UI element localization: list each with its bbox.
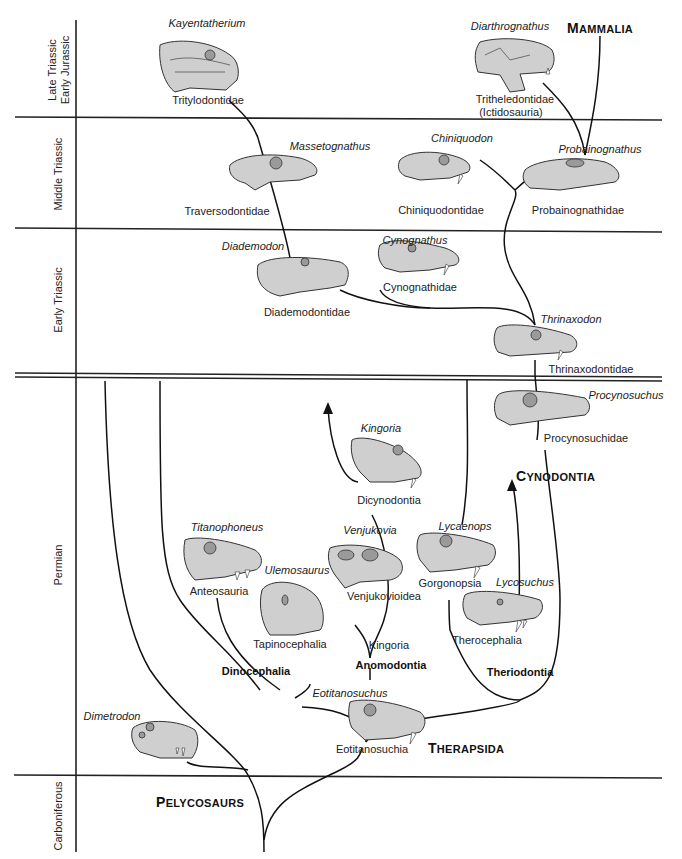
- major-label-therapsida: THERAPSIDA: [428, 740, 504, 756]
- group-theriodontia: Theriodontia: [487, 666, 554, 678]
- family-gorgonopsia: Gorgonopsia: [419, 577, 483, 589]
- arrow-dicynodont: [323, 402, 333, 414]
- period-labels: Late Triassic Early Jurassic Middle Tria…: [46, 35, 71, 850]
- boundary-middle-early-triassic: [15, 228, 662, 232]
- genus-cynognathus: Cynognathus: [383, 234, 448, 246]
- genus-thrinaxodon: Thrinaxodon: [540, 313, 601, 325]
- genus-venjukovia: Venjukovia: [343, 524, 396, 536]
- genus-procynosuchus: Procynosuchus: [588, 389, 664, 401]
- family-tritylodontidae: Tritylodontidae: [172, 94, 244, 106]
- branch-mammalia: [585, 36, 600, 155]
- branch-dicynodontia: [370, 515, 388, 658]
- skull-lycaenops: [417, 533, 495, 578]
- major-label-pelycosaurs: PELYCOSAURS: [156, 794, 244, 810]
- skull-chiniquodon: [398, 152, 470, 184]
- boundary-triassic-permian-b: [15, 377, 662, 381]
- family-tapinocephalia: Tapinocephalia: [253, 638, 327, 650]
- group-anomodontia: Anomodontia: [356, 659, 428, 671]
- skull-venjukovia: [328, 545, 402, 588]
- family-dicynodontia: Dicynodontia: [357, 494, 421, 506]
- genus-kayentatherium: Kayentatherium: [168, 17, 245, 29]
- family-probainognathidae: Probainognathidae: [532, 204, 624, 216]
- genus-eotitanosuchus: Eotitanosuchus: [312, 687, 388, 699]
- genus-lycosuchus: Lycosuchus: [496, 576, 554, 588]
- family-venjukovioidea: Venjukovioidea: [347, 590, 422, 602]
- family-anteosauria: Anteosauria: [190, 585, 250, 597]
- family-chiniquodontidae: Chiniquodontidae: [398, 204, 484, 216]
- branch-pelycosaur-stem: [105, 381, 264, 852]
- family-thrinaxodontidae: Thrinaxodontidae: [548, 363, 633, 375]
- skull-diademodon: [257, 257, 348, 296]
- major-label-mammalia: MAMMALIA: [567, 20, 633, 36]
- genus-probainognathus: Probainognathus: [558, 143, 642, 155]
- phylogeny-diagram: Late Triassic Early Jurassic Middle Tria…: [0, 0, 682, 859]
- family-eotitanosuchia: Eotitanosuchia: [336, 743, 409, 755]
- skull-procynosuchus: [494, 391, 589, 425]
- genus-diarthrognathus: Diarthrognathus: [471, 20, 550, 32]
- branch-therapsid-stem: [264, 748, 362, 840]
- period-label-early-jurassic: Early Jurassic: [59, 35, 71, 104]
- genus-chiniquodon: Chiniquodon: [431, 132, 493, 144]
- period-label-early-triassic: Early Triassic: [52, 267, 64, 333]
- branch-chiniquodon: [480, 160, 515, 190]
- branch-to-probainognathus: [504, 190, 535, 325]
- skull-kayentatherium: [160, 41, 239, 92]
- boundary-permian-carboniferous: [14, 775, 662, 778]
- family-diademodontidae: Diademodontidae: [264, 306, 350, 318]
- skull-probainognathus: [523, 159, 619, 190]
- genus-massetognathus: Massetognathus: [290, 140, 371, 152]
- genus-ulemosaurus: Ulemosaurus: [265, 564, 330, 576]
- genus-kingoria: Kingoria: [361, 422, 401, 434]
- skull-eotitanosuchus: [349, 700, 425, 744]
- skull-dimetrodon: [132, 721, 198, 758]
- node-label-kingoria: Kingoria: [369, 639, 410, 651]
- genus-dimetrodon: Dimetrodon: [84, 710, 141, 722]
- family-procynosuchidae: Procynosuchidae: [544, 432, 628, 444]
- genus-titanophoneus: Titanophoneus: [191, 521, 264, 533]
- skull-lycosuchus: [463, 591, 543, 632]
- skull-ulemosaurus: [260, 582, 323, 635]
- branch-cynodont-arrow: [513, 485, 519, 607]
- branch-cynodont-main: [520, 450, 560, 700]
- family-traversodontidae: Traversodontidae: [184, 205, 269, 217]
- branch-venjukovioidea: [355, 625, 370, 658]
- branch-gorgonopsia-upper: [462, 380, 468, 525]
- family-cynognathidae: Cynognathidae: [383, 281, 457, 293]
- genus-lycaenops: Lycaenops: [438, 520, 492, 532]
- skull-diarthrognathus: [475, 39, 554, 92]
- period-label-middle-triassic: Middle Triassic: [52, 137, 64, 210]
- family-ictidosauria: (Ictidosauria): [479, 106, 543, 118]
- branch-tapinocephalia: [295, 684, 310, 698]
- period-label-late-triassic: Late Triassic: [46, 39, 58, 101]
- major-label-cynodontia: CYNODONTIA: [516, 468, 595, 484]
- period-label-carboniferous: Carboniferous: [52, 781, 64, 851]
- boundary-jurassic-middle-triassic: [15, 117, 662, 120]
- skull-titanophoneus: [184, 538, 262, 580]
- skull-massetognathus: [230, 155, 317, 190]
- branch-cynognathus: [380, 290, 535, 325]
- branch-dinocephalian-line: [160, 381, 260, 690]
- group-dinocephalia: Dinocephalia: [222, 665, 291, 677]
- skull-thrinaxodon: [494, 325, 577, 360]
- genus-diademodon: Diademodon: [222, 240, 284, 252]
- family-therocephalia: Therocephalia: [452, 634, 523, 646]
- period-label-permian: Permian: [52, 545, 64, 586]
- skull-kingoria: [351, 438, 421, 488]
- family-tritheledontidae: Tritheledontidae: [476, 93, 554, 105]
